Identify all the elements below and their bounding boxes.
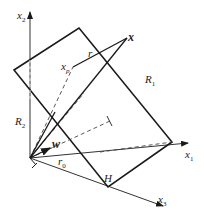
- normal-end-tick: [107, 116, 112, 126]
- x3-label: x3: [157, 193, 167, 208]
- x1-label: x1: [184, 148, 194, 163]
- xp-label: xp: [60, 60, 70, 75]
- x-label: x: [127, 30, 134, 44]
- x2-label: x2: [16, 9, 26, 24]
- r0-label: r0: [58, 155, 66, 170]
- H-label: H: [103, 172, 113, 184]
- w-label: w: [52, 137, 61, 151]
- hyperplane-h: [14, 28, 172, 187]
- xp-to-x-line: [73, 38, 127, 67]
- R1-label: R1: [144, 73, 156, 88]
- x3-axis: [30, 158, 163, 206]
- r-label: r: [88, 47, 93, 59]
- origin-to-x-line: [30, 38, 127, 158]
- hyperplane-diagram: x2 x1 x3 x xp r R1 R2 w r0 H: [0, 0, 204, 223]
- R2-label: R2: [14, 115, 26, 130]
